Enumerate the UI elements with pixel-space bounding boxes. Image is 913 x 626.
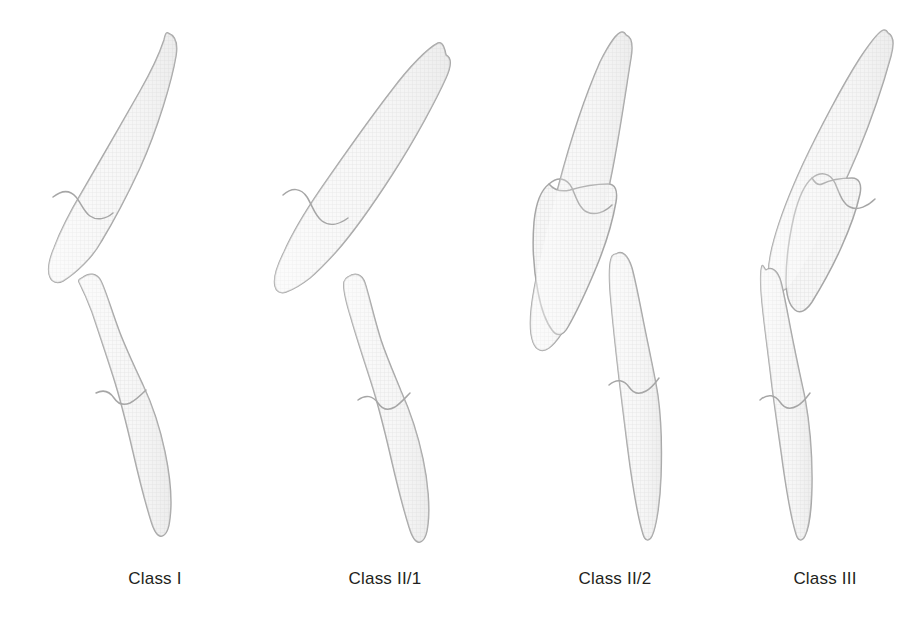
group-class-2-div-1 <box>274 43 450 542</box>
upper-incisor-shading <box>274 43 450 293</box>
lower-incisor-shading <box>610 253 662 540</box>
group-class-2-div-2 <box>530 32 661 540</box>
figure-root: Class I Class II/1 Class II/2 Class III <box>0 0 913 626</box>
group-class-1 <box>49 33 177 536</box>
group-class-3 <box>760 30 893 540</box>
class-label-2: Class II/1 <box>290 568 480 590</box>
class-1-lower-incisor <box>79 274 171 536</box>
class-3-upper-incisor <box>769 30 893 312</box>
lower-incisor-shading <box>79 274 171 536</box>
class-1-upper-incisor <box>49 33 177 283</box>
class-label-row: Class I Class II/1 Class II/2 Class III <box>0 568 913 598</box>
upper-incisor-shading <box>49 33 177 283</box>
incisor-classification-diagram <box>0 0 913 626</box>
class-label-3: Class II/2 <box>520 568 710 590</box>
class-2-2-lower-incisor <box>609 253 661 540</box>
lower-incisor-shading <box>344 274 429 542</box>
class-label-1: Class I <box>60 568 250 590</box>
class-2-1-lower-incisor <box>344 274 429 542</box>
class-2-1-upper-incisor <box>274 43 450 293</box>
class-label-4: Class III <box>730 568 913 590</box>
